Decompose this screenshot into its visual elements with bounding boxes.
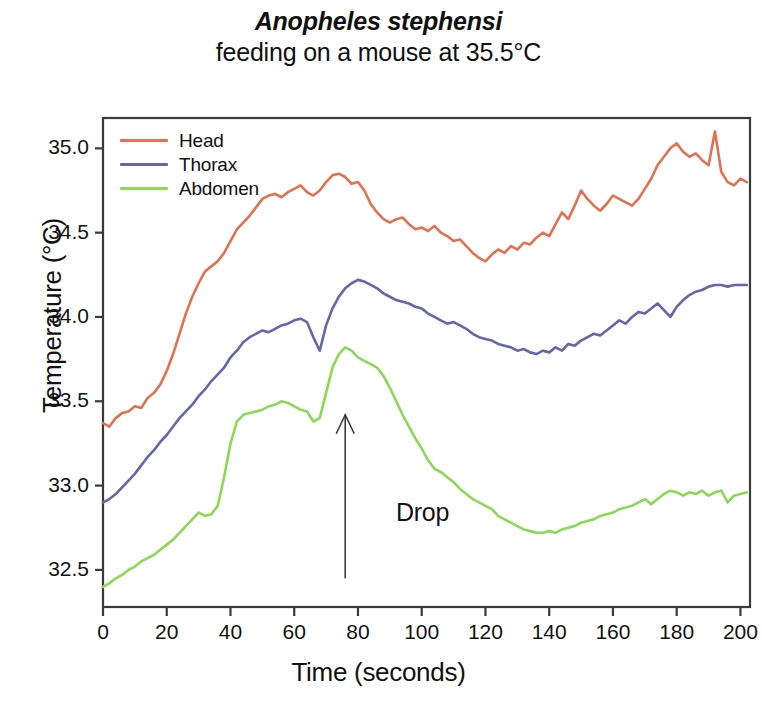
series-line-head xyxy=(103,131,747,426)
plot-frame xyxy=(103,118,750,607)
series-line-abdomen xyxy=(103,347,747,586)
series-line-thorax xyxy=(103,280,747,503)
